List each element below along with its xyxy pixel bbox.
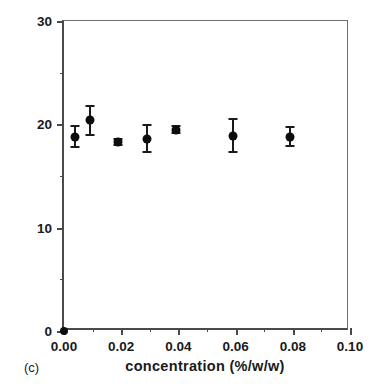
- x-tick-label: 0.04: [165, 339, 191, 354]
- y-tick-label: 0: [44, 324, 56, 339]
- x-axis-title: concentration (%/w/w): [62, 358, 348, 374]
- error-bar-cap-upper: [142, 124, 151, 126]
- y-tick-label: 30: [37, 14, 56, 29]
- x-tick-minor: [93, 328, 94, 332]
- error-bar-cap-upper: [71, 125, 80, 127]
- error-bar-cap-lower: [285, 145, 294, 147]
- panel-label: (c): [24, 360, 39, 375]
- x-tick-minor: [150, 328, 151, 332]
- data-point: [60, 327, 68, 335]
- x-tick-major: [350, 328, 352, 335]
- x-tick-minor: [321, 328, 322, 332]
- x-tick-label: 0.00: [51, 339, 77, 354]
- error-bar-cap-lower: [228, 151, 237, 153]
- y-tick-label: 10: [37, 220, 56, 235]
- x-tick-minor: [264, 328, 265, 332]
- y-tick-minor: [60, 176, 64, 177]
- x-tick-major: [293, 328, 295, 335]
- x-tick-major: [236, 328, 238, 335]
- y-tick-label: 20: [37, 117, 56, 132]
- data-point: [71, 132, 80, 141]
- y-axis-title-container: amount transported (µg/hour): [4, 20, 30, 330]
- y-tick-minor: [60, 279, 64, 280]
- error-bar-cap-upper: [85, 105, 94, 107]
- y-tick-major: [57, 124, 64, 126]
- x-tick-label: 0.10: [337, 339, 363, 354]
- x-tick-major: [121, 328, 123, 335]
- error-bar-cap-upper: [228, 118, 237, 120]
- y-tick-minor: [60, 73, 64, 74]
- data-point: [142, 134, 151, 143]
- data-point: [85, 116, 94, 125]
- x-tick-label: 0.08: [280, 339, 306, 354]
- error-bar-cap-lower: [71, 146, 80, 148]
- error-bar-cap-upper: [285, 126, 294, 128]
- plot-area: 0102030 0.000.020.040.060.080.10: [62, 20, 348, 330]
- y-tick-major: [57, 228, 64, 230]
- data-point: [285, 132, 294, 141]
- y-tick-major: [57, 21, 64, 23]
- data-point: [171, 125, 180, 134]
- data-point: [228, 131, 237, 140]
- error-bar-cap-lower: [142, 151, 151, 153]
- x-tick-label: 0.06: [222, 339, 248, 354]
- data-point: [114, 137, 123, 146]
- error-bar-cap-lower: [85, 134, 94, 136]
- figure-panel: amount transported (µg/hour) 0102030 0.0…: [0, 0, 374, 388]
- x-tick-minor: [207, 328, 208, 332]
- x-tick-label: 0.02: [108, 339, 134, 354]
- x-tick-major: [178, 328, 180, 335]
